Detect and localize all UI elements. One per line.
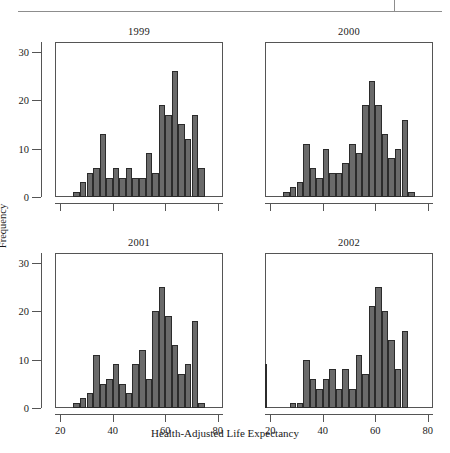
x-axis-tick [60,203,61,211]
histogram-bar [93,168,100,197]
histogram-bar [178,374,185,408]
histogram-panel-1999: 1999 [55,42,223,197]
y-axis-tick-label: 30 [19,257,30,268]
x-axis-spine [55,203,223,204]
histogram-bar [146,153,153,197]
histogram-bar [93,355,100,408]
histogram-bar [178,124,185,197]
histogram-bar [152,173,159,197]
x-axis-tick-label: 20 [55,425,66,436]
histogram-bar [146,379,153,408]
histogram-bar [106,178,113,197]
histogram-bar [119,178,126,197]
x-axis-spine [265,414,433,415]
histogram-bar [198,403,205,408]
y-axis-tick-label: 20 [19,306,30,317]
x-axis-tick-label: 20 [265,425,276,436]
histogram-bar [106,379,113,408]
histogram-bar [402,331,409,409]
histogram-bar [126,168,133,197]
bar-group [55,253,223,408]
histogram-bar [342,369,349,408]
x-axis-label: Health-Adjusted Life Expectancy [0,427,450,439]
histogram-bar [369,306,376,408]
histogram-bar [185,364,192,408]
histogram-panel-2000: 2000 [265,42,433,197]
histogram-bar [172,345,179,408]
x-axis-tick-label: 40 [318,425,329,436]
histogram-bar [73,403,80,408]
histogram-bar [310,168,317,197]
histogram-figure: Frequency Health-Adjusted Life Expectanc… [0,0,450,453]
histogram-bar [290,403,297,408]
histogram-bar [329,369,336,408]
y-axis-label: Frequency [0,204,8,248]
histogram-bar [369,81,376,197]
histogram-bar [310,379,317,408]
histogram-bar [342,163,349,197]
y-axis-spine [41,253,42,408]
y-axis-tick-label: 10 [19,354,30,365]
panel-title: 2000 [265,26,433,37]
histogram-bar [316,178,323,197]
histogram-bar [283,192,290,197]
panel-title: 1999 [55,26,223,37]
histogram-bar [382,311,389,408]
y-axis-tick-label: 0 [24,192,29,203]
x-axis-tick [270,414,271,422]
y-axis-tick [32,197,41,198]
bar-group [265,42,433,197]
histogram-bar [388,158,395,197]
histogram-bar [159,287,166,408]
bar-group [55,42,223,197]
y-axis-tick-label: 10 [19,143,30,154]
histogram-bar [185,139,192,197]
y-axis-tick-label: 0 [24,403,29,414]
x-axis-spine [55,414,223,415]
x-axis-tick [218,203,219,211]
x-axis-tick [375,414,376,422]
y-axis-tick-label: 20 [19,95,30,106]
histogram-bar [402,120,409,198]
x-axis-spine [265,203,433,204]
histogram-bar [73,192,80,197]
x-axis-tick [218,414,219,422]
histogram-bar [362,105,369,197]
histogram-bar [303,144,310,197]
bar-group [265,253,433,408]
histogram-bar [119,384,126,408]
histogram-bar [356,355,363,408]
histogram-bar [132,178,139,197]
panel-title: 2002 [265,237,433,248]
x-axis-tick [165,414,166,422]
histogram-bar [126,393,133,408]
x-axis-tick [270,203,271,211]
x-axis-tick [113,414,114,422]
histogram-bar [336,389,343,408]
histogram-bar [329,173,336,197]
y-axis-spine [41,42,42,197]
histogram-bar [132,364,139,408]
y-axis-tick [32,263,41,264]
histogram-bar [356,153,363,197]
y-axis-tick [32,149,41,150]
histogram-bar [336,173,343,197]
histogram-panel-2001: 2001 [55,253,223,408]
histogram-bar [408,192,415,197]
x-axis-tick [375,203,376,211]
y-axis-tick-label: 30 [19,46,30,57]
histogram-bar [395,369,402,408]
panel-title: 2001 [55,237,223,248]
histogram-bar [80,182,87,197]
histogram-bar [198,168,205,197]
histogram-bar [265,364,267,408]
x-axis-tick-label: 80 [213,425,224,436]
histogram-bar [100,384,107,408]
histogram-bar [152,311,159,408]
histogram-bar [395,149,402,197]
x-axis-tick [113,203,114,211]
histogram-panel-2002: 2002 [265,253,433,408]
y-axis-tick [32,52,41,53]
histogram-bar [303,360,310,408]
x-axis-tick-label: 40 [108,425,119,436]
